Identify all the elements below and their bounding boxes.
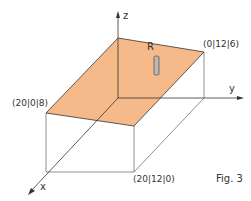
point-label-20-0-8: (20|0|8) [12, 98, 48, 108]
y-axis-label: y [229, 83, 235, 94]
x-arrow-icon [28, 188, 35, 195]
point-label-0-12-6: (0|12|6) [203, 39, 239, 49]
point-label-20-12-0: (20|12|0) [133, 174, 175, 184]
rod-r [154, 56, 159, 75]
cuboid-diagram: z y x R (20|0|8) (0|12|6) (20|12|0) Fig.… [0, 0, 251, 201]
z-arrow-icon [116, 11, 120, 18]
z-axis-label: z [123, 10, 128, 21]
tilted-plane [46, 38, 204, 126]
y-arrow-icon [237, 96, 244, 100]
x-axis-label: x [40, 181, 46, 192]
figure-caption: Fig. 3 [216, 173, 243, 184]
rod-label: R [147, 41, 154, 52]
